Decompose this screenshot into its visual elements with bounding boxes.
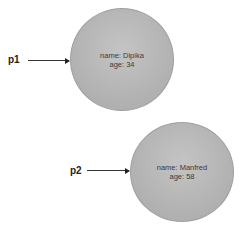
arrow-icon [87,170,129,171]
object-node-1: name: Dipika age: 34 [70,8,174,111]
arrow-icon [28,60,69,61]
object-name: name: Manfred [157,163,207,172]
reference-label-p1: p1 [8,54,20,65]
object-name: name: Dipika [100,51,144,60]
object-node-2: name: Manfred age: 58 [130,122,234,222]
object-age: age: 34 [109,60,134,69]
reference-label-p2: p2 [70,165,82,176]
object-age: age: 58 [169,172,194,181]
